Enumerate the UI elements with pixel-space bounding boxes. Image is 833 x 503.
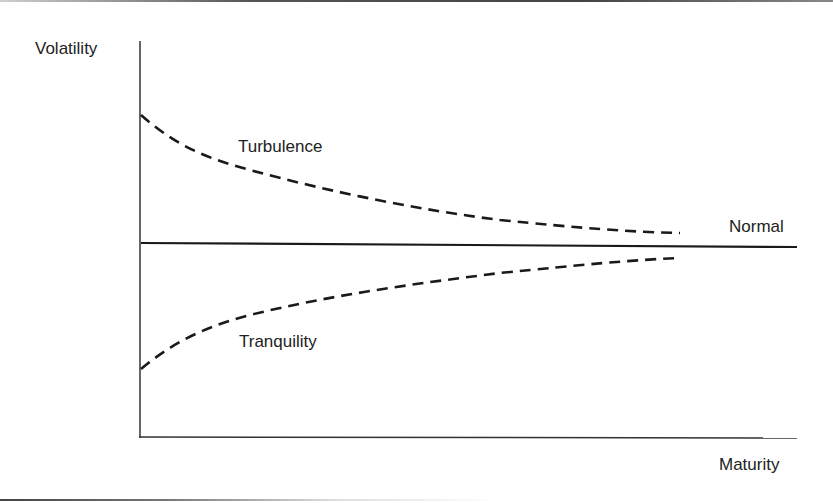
turbulence-label: Turbulence xyxy=(238,137,322,157)
x-axis-label: Maturity xyxy=(719,455,779,475)
tranquility-curve xyxy=(141,258,680,369)
turbulence-curve xyxy=(141,115,680,233)
normal-label: Normal xyxy=(729,217,784,237)
tranquility-label: Tranquility xyxy=(239,332,317,352)
y-axis-label: Volatility xyxy=(35,39,97,59)
normal-line xyxy=(141,243,797,247)
volatility-maturity-diagram xyxy=(0,0,833,503)
x-axis xyxy=(139,437,797,438)
